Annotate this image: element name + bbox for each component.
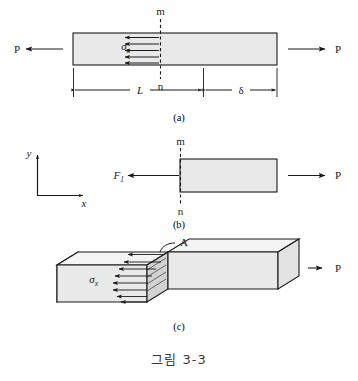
free-body-b bbox=[180, 159, 277, 192]
panel-b: y x m n F1 P (b) bbox=[26, 135, 342, 231]
axis-y-label: y bbox=[26, 147, 32, 159]
dimension-label-L: L bbox=[136, 84, 143, 96]
bar-body-a bbox=[73, 33, 277, 65]
panel-label-a: (a) bbox=[173, 112, 185, 124]
section-bottom-label-b: n bbox=[178, 205, 184, 217]
figure-3-3: m n σx P P L bbox=[0, 0, 358, 381]
section-top-label-b: m bbox=[176, 135, 185, 147]
section-top-label-a: m bbox=[156, 5, 165, 17]
force-label-right-b: P bbox=[335, 169, 341, 181]
panel-a: m n σx P P L bbox=[14, 5, 341, 124]
force-label-right-a: P bbox=[335, 43, 341, 55]
area-label-c: A bbox=[180, 236, 188, 248]
force-label-right-c: P bbox=[335, 262, 341, 274]
panel-label-c: (c) bbox=[173, 321, 185, 333]
internal-force-subscript-b: 1 bbox=[120, 175, 124, 184]
internal-force-label-b: F1 bbox=[113, 169, 124, 184]
stress-subscript-a: x bbox=[126, 46, 131, 55]
force-label-left-a: P bbox=[14, 43, 20, 55]
dimension-label-delta: δ bbox=[238, 84, 243, 96]
axis-x-label: x bbox=[81, 197, 87, 209]
figure-caption: 그림 3-3 bbox=[151, 352, 206, 367]
stress-subscript-c: x bbox=[94, 279, 99, 288]
coordinate-axes-b: y x bbox=[26, 147, 87, 209]
bar-front-face-right-c bbox=[168, 252, 278, 289]
panel-c: σx A P (c) bbox=[57, 236, 341, 333]
figure-svg: m n σx P P L bbox=[0, 0, 358, 381]
panel-label-b: (b) bbox=[173, 219, 186, 231]
